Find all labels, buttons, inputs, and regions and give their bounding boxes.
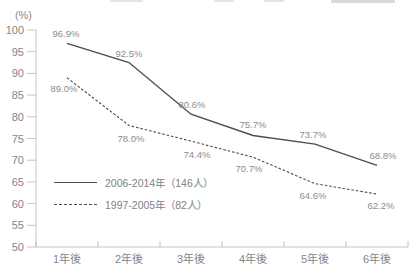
data-label: 75.7% — [240, 119, 267, 130]
y-tick-label: 100 — [6, 24, 24, 36]
y-tick-label: 65 — [12, 176, 24, 188]
solid-line-icon — [54, 182, 97, 183]
y-tick-label: 80 — [12, 111, 24, 123]
chart-legend: 2006-2014年（146人） 1997-2005年（82人） — [54, 175, 213, 212]
y-tick-label: 75 — [12, 133, 24, 145]
data-label: 73.7% — [300, 129, 327, 140]
data-label: 78.0% — [118, 133, 145, 144]
data-label: 64.6% — [300, 190, 327, 201]
legend-item-1997-2005: 1997-2005年（82人） — [54, 197, 213, 212]
data-label: 80.6% — [179, 99, 206, 110]
x-tick-label: 2年後 — [115, 252, 143, 265]
data-label: 70.7% — [236, 163, 263, 174]
y-tick-label: 50 — [12, 241, 24, 253]
data-label: 68.8% — [370, 150, 397, 161]
y-tick-label: 95 — [12, 46, 24, 58]
data-label: 89.0% — [51, 83, 78, 94]
data-label: 92.5% — [116, 48, 143, 59]
legend-label: 1997-2005年（82人） — [105, 197, 207, 212]
x-tick-label: 6年後 — [363, 252, 391, 265]
x-tick-label: 5年後 — [301, 252, 329, 265]
line-chart: (%) 505560657075808590951001年後2年後3年後4年後5… — [0, 0, 419, 273]
x-tick-label: 3年後 — [177, 252, 205, 265]
chart-canvas: 505560657075808590951001年後2年後3年後4年後5年後6年… — [0, 0, 419, 273]
data-label: 74.4% — [184, 149, 211, 160]
data-label: 96.9% — [53, 28, 80, 39]
x-tick-label: 1年後 — [53, 252, 81, 265]
y-tick-label: 60 — [12, 198, 24, 210]
y-tick-label: 55 — [12, 219, 24, 231]
y-tick-label: 85 — [12, 89, 24, 101]
data-label: 62.2% — [368, 200, 395, 211]
legend-item-2006-2014: 2006-2014年（146人） — [54, 175, 213, 190]
y-tick-label: 70 — [12, 154, 24, 166]
dashed-line-icon — [54, 204, 97, 205]
legend-label: 2006-2014年（146人） — [105, 175, 213, 190]
y-tick-label: 90 — [12, 67, 24, 79]
series-line-2006-2014 — [67, 43, 377, 165]
x-tick-label: 4年後 — [239, 252, 267, 265]
